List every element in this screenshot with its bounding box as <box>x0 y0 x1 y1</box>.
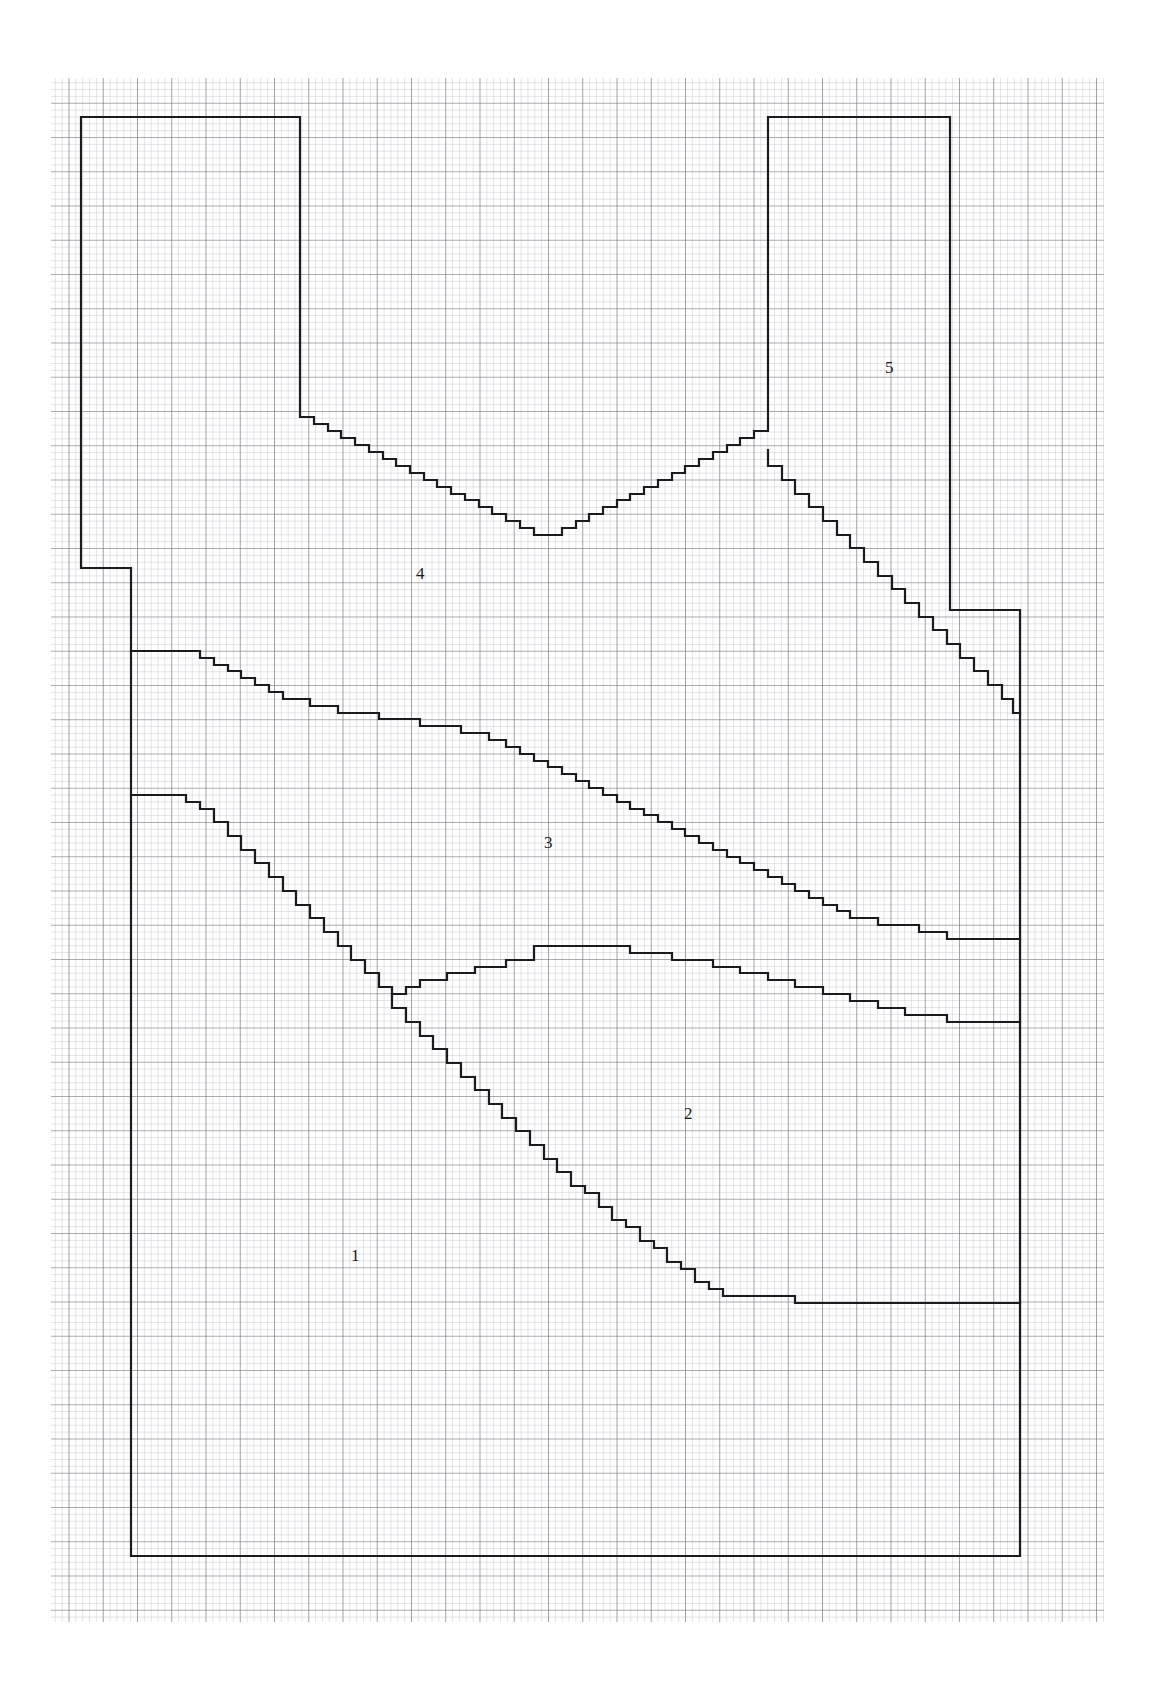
grid-area <box>51 78 1104 1622</box>
region-label-3: 3 <box>544 834 553 851</box>
contour-map-figure <box>0 0 1163 1686</box>
region-label-5: 5 <box>885 359 894 376</box>
graph-paper-sheet: 1 2 3 4 5 <box>0 0 1163 1686</box>
region-label-2: 2 <box>684 1105 693 1122</box>
region-label-1: 1 <box>351 1247 360 1264</box>
grid-layer <box>51 78 1104 1622</box>
region-label-4: 4 <box>416 565 425 582</box>
